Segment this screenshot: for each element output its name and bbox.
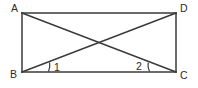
angle-label-1: 1	[54, 61, 60, 73]
angle-2-arc	[148, 63, 150, 72]
vertex-label-B: B	[10, 68, 17, 80]
vertex-label-C: C	[180, 69, 188, 81]
vertex-label-D: D	[180, 2, 188, 14]
angle-label-2: 2	[136, 60, 142, 72]
figure-canvas: A D B C 1 2	[0, 0, 198, 88]
geometry-figure: A D B C 1 2	[0, 0, 198, 88]
angle-1-arc	[49, 63, 50, 72]
vertex-label-A: A	[11, 2, 18, 14]
